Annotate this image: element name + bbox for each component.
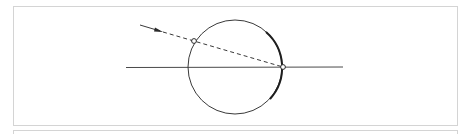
incoming-ray <box>163 32 283 67</box>
horizontal-line <box>126 67 343 68</box>
arrowhead-icon <box>154 28 163 33</box>
diagram-canvas <box>0 0 473 134</box>
entry-point <box>192 39 197 44</box>
highlighted-arc <box>266 32 282 99</box>
exit-point <box>281 65 286 70</box>
